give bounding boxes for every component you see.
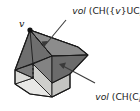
label-bottom-open: (CH(C	[109, 91, 139, 102]
figure-container: v vol (CH({v}UCi)) vol (CH(Ci))	[0, 0, 140, 111]
label-top-group: vol (CH({v}UCi))	[46, 5, 140, 18]
polyhedron	[15, 30, 88, 97]
label-bottom-vol: vol	[95, 91, 109, 102]
label-top-mid: }UC	[121, 5, 140, 16]
apex-vertex: v	[19, 18, 33, 33]
label-bottom-text: vol (CH(Ci))	[69, 91, 140, 104]
geometry-diagram: v vol (CH({v}UCi)) vol (CH(Ci))	[0, 0, 140, 111]
vertex-dot-icon	[27, 27, 32, 32]
label-top-open: (CH({	[86, 5, 115, 16]
label-bottom-group: vol (CH(Ci))	[69, 91, 140, 104]
label-top-text: vol (CH({v}UCi))	[46, 5, 140, 18]
label-top-vol: vol	[72, 5, 86, 16]
vertex-label: v	[19, 18, 25, 29]
